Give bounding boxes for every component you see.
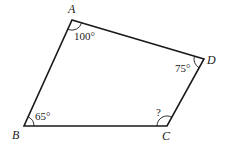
angle-label-b: 65° <box>35 110 50 122</box>
angle-label-a: 100° <box>74 30 95 42</box>
vertex-label-a: A <box>67 2 76 16</box>
vertex-label-b: B <box>12 128 20 142</box>
vertex-label-c: C <box>162 129 171 143</box>
angle-label-d: 75° <box>175 62 190 74</box>
vertex-label-d: D <box>206 53 216 67</box>
angle-label-c: ? <box>156 106 161 118</box>
angle-arc-b <box>28 117 34 126</box>
quadrilateral-diagram: A B C D 100° 65° ? 75° <box>0 0 227 143</box>
